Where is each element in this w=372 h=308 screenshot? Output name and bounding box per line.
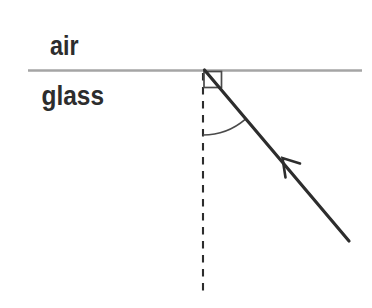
refraction-diagram: air glass (0, 0, 372, 308)
diagram-canvas: air glass (0, 0, 372, 308)
glass-label: glass (42, 80, 105, 111)
air-label: air (50, 30, 79, 61)
incident-ray (205, 70, 350, 241)
angle-arc (203, 119, 245, 135)
